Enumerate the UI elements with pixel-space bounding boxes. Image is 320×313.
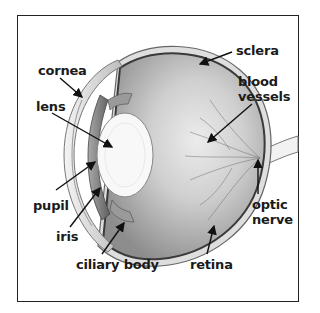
label-lens: lens (36, 100, 65, 114)
label-retina: retina (190, 258, 233, 272)
label-ciliary-body: ciliary body (76, 258, 159, 272)
label-blood-vessels-line2: vessels (238, 90, 290, 104)
lens-shape (97, 113, 153, 197)
label-iris: iris (56, 230, 78, 244)
label-optic-nerve-line2: nerve (252, 213, 293, 227)
arrow-cornea (60, 78, 82, 97)
label-cornea: cornea (38, 64, 87, 78)
label-sclera: sclera (236, 44, 279, 58)
label-pupil: pupil (33, 199, 69, 213)
label-blood-vessels-line1: blood (238, 75, 278, 89)
label-optic-nerve-line1: optic (252, 198, 288, 212)
